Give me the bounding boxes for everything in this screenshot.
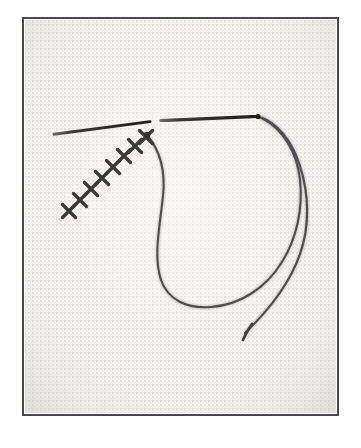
fabric-cloth <box>25 20 336 413</box>
fabric-vignette <box>25 20 336 413</box>
cross-stitch-illustration <box>0 0 361 448</box>
needle-eye-icon <box>255 114 260 119</box>
cross-stitch-figure: A tapestry needle lies across evenweave … <box>0 0 361 448</box>
thread-entry-point <box>144 132 150 138</box>
